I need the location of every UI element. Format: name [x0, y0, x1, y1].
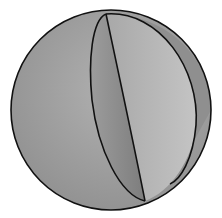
sphere-figure [0, 0, 222, 218]
sphere-diagram [0, 0, 222, 218]
